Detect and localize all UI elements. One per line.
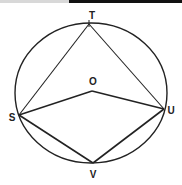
segment-SO [19, 91, 92, 115]
segment-TU [89, 24, 164, 109]
circle-figure: T O S U V [0, 0, 182, 185]
label-O: O [89, 76, 97, 87]
segment-ST [19, 24, 89, 115]
label-U: U [167, 105, 174, 116]
segment-VU [93, 109, 164, 163]
geometry-diagram: T O S U V [0, 0, 182, 185]
segment-OU [92, 91, 164, 109]
circle [15, 23, 167, 163]
label-S: S [9, 112, 16, 123]
label-T: T [89, 10, 95, 21]
label-V: V [90, 169, 97, 180]
